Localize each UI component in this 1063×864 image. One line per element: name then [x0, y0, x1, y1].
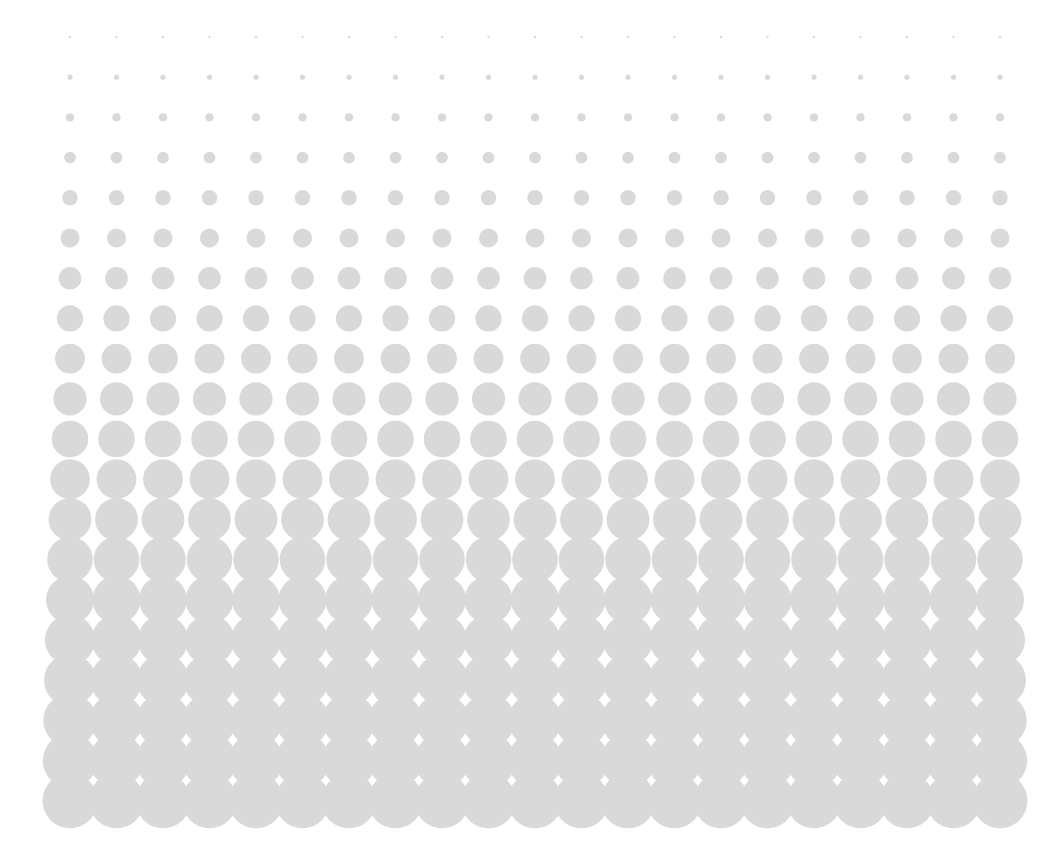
halftone-dot [985, 344, 1015, 374]
halftone-dot [245, 267, 268, 290]
halftone-dot [793, 498, 836, 541]
halftone-dot [111, 152, 123, 164]
halftone-dot [580, 36, 582, 38]
halftone-dot [794, 459, 834, 499]
halftone-dot [486, 75, 491, 80]
halftone-dot [236, 459, 276, 499]
halftone-dot [515, 459, 555, 499]
halftone-dot [613, 344, 643, 374]
halftone-dot [332, 382, 365, 415]
halftone-dot [563, 421, 600, 458]
halftone-dot [906, 36, 908, 38]
halftone-dot [281, 498, 324, 541]
dot-row [53, 382, 1016, 415]
halftone-dot [903, 113, 911, 121]
halftone-dot [858, 75, 863, 80]
halftone-dot [47, 537, 93, 583]
halftone-dot [656, 421, 693, 458]
halftone-dot [841, 459, 881, 499]
halftone-dot [896, 267, 919, 290]
halftone-dot [720, 36, 722, 38]
halftone-dot [483, 152, 495, 164]
halftone-dot [148, 344, 178, 374]
halftone-dot [855, 152, 867, 164]
halftone-dot [425, 382, 458, 415]
halftone-dot [377, 421, 414, 458]
dot-row [52, 421, 1019, 458]
halftone-dot [102, 344, 132, 374]
halftone-dot [393, 75, 398, 80]
halftone-dot [704, 382, 737, 415]
halftone-dot [700, 498, 743, 541]
halftone-dot [470, 421, 507, 458]
halftone-dot [670, 113, 678, 121]
halftone-dot [605, 537, 651, 583]
halftone-dot [791, 537, 837, 583]
halftone-dot [901, 152, 913, 164]
halftone-dot [937, 382, 970, 415]
halftone-dot [233, 537, 279, 583]
halftone-dot [994, 152, 1006, 164]
halftone-dot [439, 75, 444, 80]
halftone-dot [238, 421, 275, 458]
halftone-dot [376, 459, 416, 499]
halftone-dot [66, 113, 74, 121]
halftone-dot [999, 36, 1001, 38]
halftone-dot [842, 421, 879, 458]
halftone-dot [49, 498, 92, 541]
halftone-dot [343, 152, 355, 164]
halftone-dot [484, 113, 492, 121]
halftone-dot [69, 36, 71, 38]
halftone-dot [67, 75, 72, 80]
halftone-dot [115, 36, 117, 38]
halftone-dot [801, 305, 827, 331]
halftone-dot [748, 459, 788, 499]
dot-row [62, 190, 1007, 205]
halftone-dot [565, 382, 598, 415]
halftone-dot [749, 421, 786, 458]
halftone-dot [391, 113, 399, 121]
halftone-dot [205, 113, 213, 121]
halftone-dot [373, 537, 419, 583]
halftone-dot [388, 190, 403, 205]
halftone-dot [57, 305, 83, 331]
halftone-dot [849, 267, 872, 290]
halftone-dot [95, 498, 138, 541]
halftone-dot [419, 537, 465, 583]
halftone-dot [105, 267, 128, 290]
halftone-dot [619, 229, 638, 248]
halftone-dot [527, 190, 542, 205]
halftone-dot [433, 229, 452, 248]
halftone-dot [140, 537, 186, 583]
halftone-dot [746, 498, 789, 541]
halftone-dot [198, 267, 221, 290]
halftone-dot [806, 190, 821, 205]
halftone-dot [753, 344, 783, 374]
halftone-dot [512, 537, 558, 583]
halftone-dot [52, 421, 89, 458]
halftone-dot [334, 344, 364, 374]
halftone-dot [341, 190, 356, 205]
halftone-dot [710, 267, 733, 290]
halftone-dot [951, 75, 956, 80]
halftone-dot [665, 229, 684, 248]
halftone-dot [570, 267, 593, 290]
halftone-dot [992, 190, 1007, 205]
halftone-dot [949, 113, 957, 121]
halftone-dot [424, 421, 461, 458]
halftone-dot [253, 75, 258, 80]
halftone-dot [996, 113, 1004, 121]
halftone-dot [982, 421, 1019, 458]
halftone-dot [952, 36, 954, 38]
halftone-dot [328, 498, 371, 541]
halftone-dot [853, 190, 868, 205]
halftone-dot [422, 459, 462, 499]
halftone-dot [562, 459, 602, 499]
halftone-dot [765, 75, 770, 80]
halftone-dot [577, 113, 585, 121]
halftone-dot [660, 344, 690, 374]
halftone-dot [208, 36, 210, 38]
halftone-dot [196, 305, 222, 331]
halftone-dot [624, 113, 632, 121]
halftone-dot [762, 152, 774, 164]
